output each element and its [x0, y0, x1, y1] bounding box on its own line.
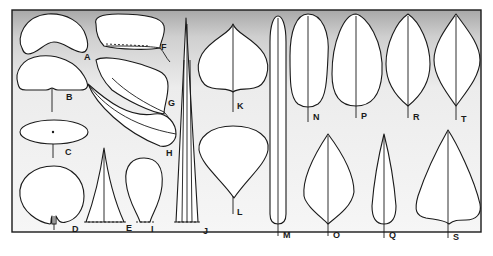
label-f: F	[161, 42, 167, 52]
label-i: I	[151, 224, 154, 234]
label-p: P	[361, 111, 367, 121]
label-l: L	[237, 207, 243, 217]
label-d: D	[72, 224, 79, 234]
label-m: M	[283, 230, 291, 240]
label-k: K	[237, 101, 244, 111]
label-j: J	[203, 226, 208, 236]
label-b: B	[66, 92, 73, 102]
label-e: E	[126, 223, 132, 233]
label-n: N	[313, 112, 320, 122]
label-h: H	[166, 148, 173, 158]
label-r: R	[413, 112, 420, 122]
label-q: Q	[389, 230, 396, 240]
label-c: C	[65, 147, 72, 157]
leaf-shapes-figure: A B C D E F G H	[0, 0, 493, 256]
label-o: O	[333, 230, 340, 240]
label-s: S	[453, 232, 459, 242]
label-a: A	[84, 52, 91, 62]
label-g: G	[168, 98, 175, 108]
label-t: T	[461, 114, 467, 124]
